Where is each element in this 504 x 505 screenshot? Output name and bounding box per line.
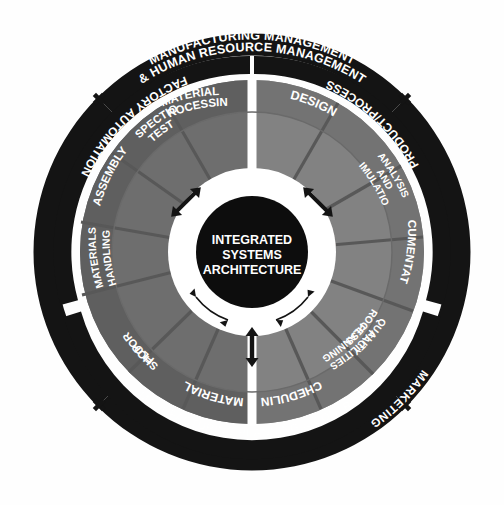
core-line-3: ARCHITECTURE	[203, 263, 302, 277]
core-line-1: INTEGRATED	[212, 233, 292, 247]
core-line-2: SYSTEMS	[222, 248, 282, 262]
wheel-svg: MANUFACTURING MANAGEMENT & HUMAN RESOURC…	[0, 0, 504, 505]
diagram-canvas: MANUFACTURING MANAGEMENT & HUMAN RESOURC…	[0, 0, 504, 505]
